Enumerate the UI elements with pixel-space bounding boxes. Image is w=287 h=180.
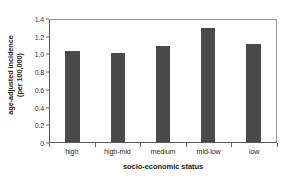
plot-area: [49, 19, 277, 143]
bar: [246, 44, 260, 142]
x-axis-tick-label: mid-low: [197, 147, 221, 156]
y-axis-tick-label: 1.2: [35, 33, 44, 40]
bar: [111, 53, 125, 142]
bar-slot: [95, 20, 140, 142]
x-axis-tick-labels: highhigh-midmediummid-lowlow: [49, 147, 277, 159]
x-axis-tick-mark: [277, 143, 278, 147]
bar-chart-figure: age-adjusted incidence (per 100,000) 00.…: [0, 0, 287, 180]
x-axis-tick-mark: [186, 143, 187, 147]
x-axis-tick-label: high-mid: [104, 147, 131, 156]
y-axis-tick-label: 1.0: [35, 51, 44, 58]
bar: [201, 28, 215, 142]
bar-slot: [140, 20, 185, 142]
bar-slot: [50, 20, 95, 142]
x-axis-title: socio-economic status: [49, 162, 277, 171]
bar-slot: [231, 20, 276, 142]
y-axis-title-line1: age-adjusted incidence: [6, 35, 15, 115]
y-axis-tick-label: 0.6: [35, 86, 44, 93]
y-axis-title-line2: (per 100,000): [15, 35, 24, 115]
y-axis-tick-label: 0.2: [35, 122, 44, 129]
x-axis-tick-label: medium: [151, 147, 176, 156]
y-axis-tick-label: 1.4: [35, 16, 44, 23]
y-axis-title: age-adjusted incidence (per 100,000): [0, 0, 30, 150]
x-axis-tick-mark: [49, 143, 50, 147]
y-axis-tick-labels: 00.20.40.60.81.01.21.4: [28, 19, 44, 143]
x-axis-tick-label: low: [249, 147, 260, 156]
x-axis-tick-label: high: [65, 147, 78, 156]
bar: [65, 51, 79, 143]
bar-series: [50, 20, 276, 142]
x-axis-tick-mark: [231, 143, 232, 147]
y-axis-tick-label: 0.4: [35, 104, 44, 111]
bar: [156, 46, 170, 142]
y-axis-tick-label: 0.8: [35, 69, 44, 76]
x-axis-tick-mark: [140, 143, 141, 147]
x-axis-tick-mark: [95, 143, 96, 147]
bar-slot: [186, 20, 231, 142]
y-axis-tick-label: 0: [40, 140, 44, 147]
